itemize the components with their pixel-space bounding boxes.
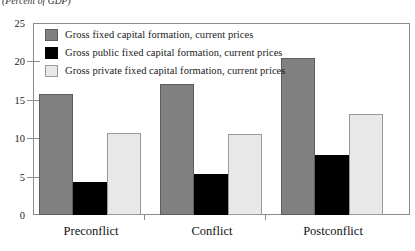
y-tick-label-15: 15 — [15, 95, 26, 106]
x-label-conflict: Conflict — [192, 224, 233, 239]
bar-preconflict-total[interactable] — [39, 94, 73, 215]
legend-label-private: Gross private fixed capital formation, c… — [65, 65, 285, 76]
bar-preconflict-private[interactable] — [107, 133, 141, 215]
x-label-preconflict: Preconflict — [64, 224, 119, 239]
y-axis: 25 20 15 10 5 0 — [0, 0, 33, 251]
legend-swatch-total-icon — [45, 29, 58, 41]
x-label-postconflict: Postconflict — [303, 224, 363, 239]
bar-conflict-total[interactable] — [160, 84, 194, 215]
bar-conflict-public[interactable] — [194, 174, 228, 215]
bar-postconflict-public[interactable] — [315, 155, 349, 215]
bar-preconflict-public[interactable] — [73, 182, 107, 215]
bar-postconflict-private[interactable] — [349, 114, 383, 215]
bar-conflict-private[interactable] — [228, 134, 262, 215]
x-tick-mark-1 — [144, 215, 145, 220]
y-tick-label-0: 0 — [20, 210, 25, 221]
y-tick-label-5: 5 — [20, 172, 25, 183]
y-tick-label-10: 10 — [15, 133, 26, 144]
legend-swatch-public-icon — [45, 47, 58, 59]
y-tick-label-25: 25 — [15, 18, 26, 29]
y-tick-label-20: 20 — [15, 56, 26, 67]
x-tick-mark-2 — [265, 215, 266, 220]
legend: Gross fixed capital formation, current p… — [45, 28, 285, 77]
legend-item-public[interactable]: Gross public fixed capital formation, cu… — [45, 46, 285, 59]
legend-label-public: Gross public fixed capital formation, cu… — [65, 47, 283, 58]
legend-item-private[interactable]: Gross private fixed capital formation, c… — [45, 64, 285, 77]
legend-swatch-private-icon — [45, 65, 58, 77]
y-tick-stub-20 — [34, 61, 40, 62]
bar-postconflict-total[interactable] — [281, 58, 315, 215]
legend-item-total[interactable]: Gross fixed capital formation, current p… — [45, 28, 285, 41]
legend-label-total: Gross fixed capital formation, current p… — [65, 29, 253, 40]
